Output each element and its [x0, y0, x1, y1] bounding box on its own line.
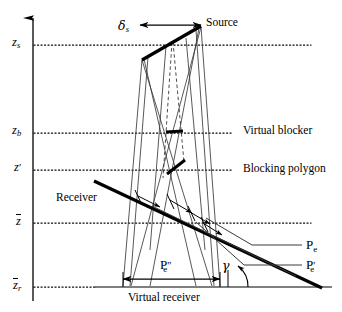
gamma-label: γ: [222, 260, 229, 273]
axis-label-z-prime: z′: [14, 161, 21, 174]
axis-label-zb: zb: [12, 124, 21, 138]
beam-right-outer: [201, 27, 220, 286]
gamma-angle-arc: [238, 266, 248, 287]
penumbra-dashed-rays: [163, 42, 184, 178]
pe-prime-label: P'e: [306, 256, 314, 274]
delta-s-label: δs: [118, 17, 129, 34]
virtual-receiver-label: Virtual receiver: [128, 292, 200, 304]
blocking-polygon-label: Blocking polygon: [243, 163, 326, 175]
shadow-beam-rays: [123, 27, 220, 286]
pe-double-prime-label: P''e: [160, 256, 167, 274]
ray-blocker-right: [186, 38, 205, 250]
penumbra-right: [173, 42, 184, 162]
blocking-polygon-segment: [167, 160, 185, 174]
receiver-label: Receiver: [56, 192, 97, 204]
axis-label-zs: zs: [12, 36, 20, 50]
ray-left-to-right: [142, 60, 212, 286]
diagram-figure: zs zb z′ z zr δs Source Virtual blocker …: [0, 0, 342, 312]
source-label: Source: [206, 17, 238, 29]
footprint-arrow-3: [190, 212, 210, 224]
axis-label-z-bar: z: [16, 215, 21, 228]
axis-label-zr: zr: [13, 279, 21, 293]
thick-features: [94, 26, 322, 288]
pe-label: Pe: [306, 236, 317, 254]
ray-blocker-left: [150, 46, 166, 250]
virtual-blocker-label: Virtual blocker: [243, 125, 312, 137]
virtual-blocker-segment: [166, 131, 183, 132]
pe-band-upper: [206, 218, 252, 245]
